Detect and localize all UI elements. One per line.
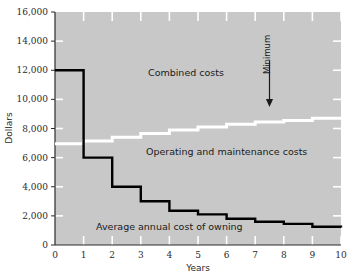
x-axis-tick-label: 2 — [109, 250, 115, 260]
series-label-operating-maintenance-costs: Operating and maintenance costs — [146, 146, 307, 157]
x-axis-title: Years — [185, 263, 210, 273]
y-axis-tick-label: 0 — [42, 240, 48, 250]
y-axis-tick-label: 12,000 — [17, 65, 49, 75]
x-axis-tick-label: 8 — [281, 250, 287, 260]
x-axis-tick-label: 0 — [52, 250, 58, 260]
y-axis-tick-label: 10,000 — [17, 94, 49, 104]
series-label-combined-costs: Combined costs — [148, 67, 224, 78]
y-axis-tick-label: 6,000 — [22, 153, 48, 163]
series-label-average-annual-cost-of-owning: Average annual cost of owning — [96, 221, 243, 232]
x-axis-tick-label: 7 — [252, 250, 258, 260]
y-axis-tick-label: 2,000 — [22, 211, 48, 221]
x-axis-tick-label: 9 — [310, 250, 316, 260]
y-axis-tick-label: 14,000 — [17, 36, 49, 46]
x-axis-tick-label: 4 — [167, 250, 173, 260]
chart-svg: 02,0004,0006,0008,00010,00012,00014,0001… — [0, 0, 352, 277]
y-axis-tick-label: 4,000 — [22, 182, 48, 192]
chart-figure: 02,0004,0006,0008,00010,00012,00014,0001… — [0, 0, 352, 277]
y-axis-tick-labels: 02,0004,0006,0008,00010,00012,00014,0001… — [17, 7, 49, 250]
x-axis-tick-label: 10 — [335, 250, 347, 260]
y-axis-tick-label: 8,000 — [22, 124, 48, 134]
x-axis-tick-label: 3 — [138, 250, 144, 260]
x-axis-tick-label: 6 — [224, 250, 230, 260]
x-axis-tick-label: 5 — [195, 250, 201, 260]
x-axis-tick-label: 1 — [81, 250, 87, 260]
y-axis-tick-label: 16,000 — [17, 7, 49, 17]
y-axis-title: Dollars — [4, 112, 14, 144]
